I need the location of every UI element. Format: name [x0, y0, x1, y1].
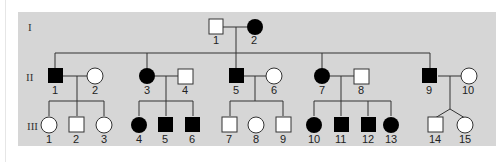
id-label: 2 — [251, 34, 257, 46]
generation-label-I: I — [28, 21, 32, 33]
id-label: 3 — [144, 84, 150, 96]
individual-I-1-male-unaffected — [209, 19, 223, 34]
id-label: 7 — [319, 84, 325, 96]
id-label: 8 — [358, 84, 364, 96]
individual-III-3-female-unaffected — [96, 117, 112, 133]
id-label: 5 — [162, 133, 168, 145]
individual-II-10-female-unaffected — [461, 68, 477, 84]
individual-III-2-male-unaffected — [69, 117, 84, 132]
pedigree-chart: I II III 1 2 1 2 3 4 5 6 7 8 9 10 1 2 — [0, 0, 502, 162]
id-label: 15 — [459, 133, 471, 145]
id-label: 2 — [73, 133, 79, 145]
id-label: 2 — [92, 84, 98, 96]
id-label: 13 — [385, 133, 397, 145]
individual-III-14-male-unaffected-twin — [428, 117, 443, 132]
id-label: 8 — [253, 133, 259, 145]
individual-III-15-female-unaffected-twin — [457, 117, 473, 133]
id-label: 9 — [280, 133, 286, 145]
individual-II-2-female-unaffected — [87, 68, 103, 84]
id-label: 1 — [46, 133, 52, 145]
id-label: 5 — [233, 84, 239, 96]
individual-II-6-female-unaffected — [266, 68, 282, 84]
individual-I-2-female-affected — [247, 19, 263, 35]
id-label: 3 — [101, 133, 107, 145]
individual-II-9-male-affected — [422, 68, 437, 83]
individual-III-4-female-affected — [131, 117, 147, 133]
individual-III-8-female-unaffected — [248, 117, 264, 133]
individual-III-1-female-unaffected — [41, 117, 57, 133]
id-label: 1 — [52, 84, 58, 96]
individual-III-10-female-affected — [306, 117, 322, 133]
individual-III-13-female-affected — [383, 117, 399, 133]
id-label: 4 — [136, 133, 142, 145]
id-label: 9 — [426, 84, 432, 96]
individual-III-5-male-affected — [158, 117, 173, 132]
id-label: 6 — [189, 133, 195, 145]
individual-III-9-male-unaffected — [276, 117, 291, 132]
individual-II-4-male-unaffected — [178, 69, 193, 84]
individual-II-5-male-affected — [229, 68, 244, 83]
individual-III-12-male-affected — [361, 117, 376, 132]
individual-II-3-female-affected — [139, 68, 155, 84]
id-label: 10 — [462, 84, 474, 96]
individual-II-8-male-unaffected — [354, 69, 369, 84]
individual-II-1-male-affected — [48, 68, 63, 83]
id-label: 12 — [362, 133, 374, 145]
id-label: 14 — [429, 133, 441, 145]
id-label: 1 — [213, 34, 219, 46]
generation-label-III: III — [27, 120, 38, 132]
id-label: 11 — [335, 133, 346, 145]
id-label: 6 — [271, 84, 277, 96]
generation-label-II: II — [26, 71, 34, 83]
id-label: 7 — [226, 133, 232, 145]
individual-III-6-male-affected — [185, 117, 200, 132]
individual-II-7-female-affected — [314, 68, 330, 84]
individual-III-7-male-unaffected — [222, 117, 237, 132]
pedigree-figure: I II III 1 2 1 2 3 4 5 6 7 8 9 10 1 2 — [0, 0, 502, 162]
id-label: 10 — [308, 133, 320, 145]
individual-III-11-male-affected — [334, 117, 349, 132]
id-label: 4 — [182, 84, 188, 96]
